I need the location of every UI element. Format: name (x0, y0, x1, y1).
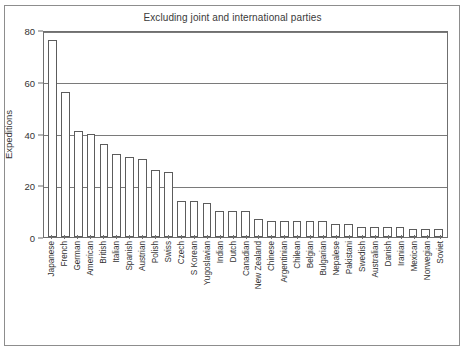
x-axis-labels: JapaneseFrenchGermanAmericanBritishItali… (43, 239, 448, 339)
x-label-slot: Norwegian (420, 239, 433, 339)
x-tick-label: Chinese (267, 241, 276, 271)
x-label-slot: Dutch (226, 239, 239, 339)
bar-slot (226, 32, 239, 237)
x-tick-label: Australian (370, 241, 379, 277)
x-tick-mark (181, 235, 182, 239)
x-tick-mark (116, 235, 117, 239)
x-tick-label: Spanish (125, 241, 134, 271)
x-label-slot: Polish (149, 239, 162, 339)
bar-slot (381, 32, 394, 237)
x-tick-label: German (73, 241, 82, 271)
y-tick-label: 40 (24, 129, 35, 140)
y-tick-label: 0 (30, 233, 35, 244)
x-tick-mark (427, 235, 428, 239)
bar-slot (201, 32, 214, 237)
x-label-slot: Mexican (407, 239, 420, 339)
x-tick-mark (375, 235, 376, 239)
x-tick-mark (271, 235, 272, 239)
x-label-slot: Chilean (291, 239, 304, 339)
x-tick-mark (284, 235, 285, 239)
x-label-slot: German (71, 239, 84, 339)
bar-slot (407, 32, 420, 237)
x-label-slot: Bulgarian (317, 239, 330, 339)
bar (190, 201, 199, 237)
x-tick-mark (155, 235, 156, 239)
x-tick-label: Dutch (228, 241, 237, 262)
chart-title: Excluding joint and international partie… (0, 12, 465, 23)
x-label-slot: S Korean (187, 239, 200, 339)
bar-slot (175, 32, 188, 237)
bar-slot (110, 32, 123, 237)
x-label-slot: Canadian (239, 239, 252, 339)
x-label-slot: Swiss (161, 239, 174, 339)
x-label-slot: Spanish (123, 239, 136, 339)
bar (87, 134, 96, 238)
x-tick-label: Italian (112, 241, 121, 263)
x-tick-label: Iranian (396, 241, 405, 266)
x-tick-label: Bulgarian (319, 241, 328, 276)
bar-slot (46, 32, 59, 237)
bar-series (44, 32, 447, 237)
y-tick-label: 60 (24, 77, 35, 88)
x-tick-mark (168, 235, 169, 239)
x-tick-mark (194, 235, 195, 239)
bar-slot (162, 32, 175, 237)
x-tick-mark (90, 235, 91, 239)
x-tick-mark (103, 235, 104, 239)
x-tick-label: Japanese (47, 241, 56, 277)
bar-slot (316, 32, 329, 237)
x-tick-mark (388, 235, 389, 239)
x-tick-mark (246, 235, 247, 239)
x-label-slot: British (97, 239, 110, 339)
y-tick-label: 20 (24, 181, 35, 192)
bar (241, 211, 250, 237)
x-label-slot: Chinese (265, 239, 278, 339)
bar-slot (136, 32, 149, 237)
x-tick-label: Indian (215, 241, 224, 263)
x-tick-label: Swedish (357, 241, 366, 272)
x-tick-label: Czech (176, 241, 185, 264)
x-label-slot: Italian (110, 239, 123, 339)
bar-slot (368, 32, 381, 237)
x-tick-label: Argentinian (280, 241, 289, 282)
x-tick-mark (440, 235, 441, 239)
bar-slot (265, 32, 278, 237)
x-tick-label: Canadian (241, 241, 250, 276)
x-label-slot: Danish (381, 239, 394, 339)
bar-slot (355, 32, 368, 237)
bar (177, 201, 186, 237)
x-tick-mark (310, 235, 311, 239)
x-label-slot: Pakistani (343, 239, 356, 339)
x-label-slot: Argentinian (278, 239, 291, 339)
bar-slot (291, 32, 304, 237)
bar (203, 203, 212, 237)
x-tick-mark (207, 235, 208, 239)
plot-area (43, 31, 448, 238)
bar-slot (252, 32, 265, 237)
x-tick-label: Nepalese (332, 241, 341, 276)
bar-slot (239, 32, 252, 237)
x-tick-label: Soviet (435, 241, 444, 264)
x-tick-label: French (60, 241, 69, 266)
bar (100, 144, 109, 237)
x-tick-label: Mexican (409, 241, 418, 272)
x-tick-mark (129, 235, 130, 239)
x-label-slot: Czech (174, 239, 187, 339)
x-label-slot: Soviet (433, 239, 446, 339)
bar-slot (85, 32, 98, 237)
x-tick-mark (336, 235, 337, 239)
bar (138, 159, 147, 237)
x-label-slot: Indian (213, 239, 226, 339)
x-label-slot: Nepalese (330, 239, 343, 339)
x-label-slot: Swedish (356, 239, 369, 339)
bar-slot (278, 32, 291, 237)
x-label-slot: New Zealand (252, 239, 265, 339)
chart-figure: Excluding joint and international partie… (0, 0, 465, 356)
bar (228, 211, 237, 237)
x-tick-mark (349, 235, 350, 239)
x-tick-mark (414, 235, 415, 239)
bar-slot (123, 32, 136, 237)
bar (61, 92, 70, 237)
x-label-slot: Yugoslavian (200, 239, 213, 339)
bar-slot (149, 32, 162, 237)
